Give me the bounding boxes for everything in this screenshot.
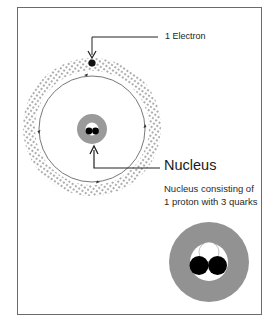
quark-dark bbox=[190, 256, 209, 275]
large-nucleus-proton bbox=[169, 222, 249, 302]
nucleus-label: Nucleus bbox=[164, 157, 216, 173]
quark-dark bbox=[208, 256, 227, 275]
electron-label: 1 Electron bbox=[165, 31, 206, 41]
small-nucleus bbox=[77, 114, 107, 144]
nucleus-description: Nucleus consisting of 1 proton with 3 qu… bbox=[164, 182, 257, 208]
nucleus-description-line1: Nucleus consisting of bbox=[164, 182, 257, 195]
electron-dot bbox=[88, 59, 95, 66]
atom-diagram bbox=[0, 0, 279, 336]
electron-pointer-arrow bbox=[88, 37, 158, 58]
nucleus-description-line2: 1 proton with 3 quarks bbox=[164, 195, 257, 208]
